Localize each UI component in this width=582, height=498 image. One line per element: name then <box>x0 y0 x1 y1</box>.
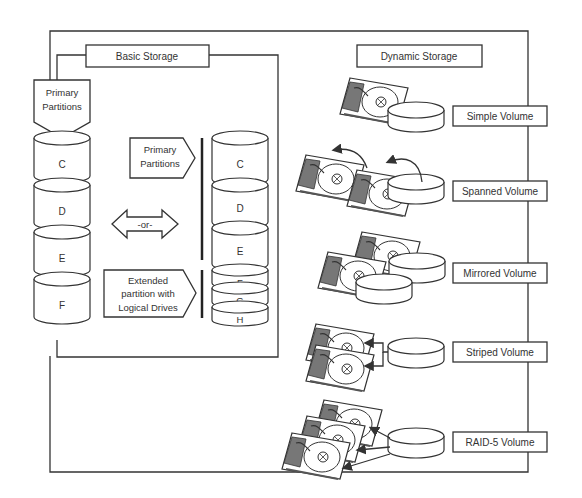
volume-disk-icon <box>356 274 412 304</box>
basic-storage-title: Basic Storage <box>86 45 209 67</box>
left-disk-e: E <box>34 225 90 277</box>
svg-text:Primary: Primary <box>144 144 177 155</box>
svg-text:Partitions: Partitions <box>140 158 180 169</box>
arrow-icon <box>358 447 390 450</box>
svg-text:C: C <box>58 159 65 170</box>
svg-text:RAID-5 Volume: RAID-5 Volume <box>466 437 535 448</box>
svg-text:-or-: -or- <box>138 219 153 230</box>
left-disk-f: F <box>34 272 90 324</box>
or-double-arrow: -or- <box>112 210 178 238</box>
svg-text:Spanned Volume: Spanned Volume <box>462 186 539 197</box>
extended-partition-callout: Extended partition with Logical Drives <box>104 270 196 317</box>
volume-disk-icon <box>388 428 444 458</box>
right-disk-stack: C D E F G H <box>212 131 268 326</box>
volume-disk-icon <box>388 102 444 132</box>
left-disk-d: D <box>34 178 90 230</box>
svg-text:Dynamic Storage: Dynamic Storage <box>381 51 458 62</box>
primary-partitions-callout: Primary Partitions <box>130 138 195 178</box>
dynamic-storage-title: Dynamic Storage <box>357 45 482 67</box>
spanned-volume-group: Spanned Volume <box>296 149 547 216</box>
svg-text:Striped Volume: Striped Volume <box>466 347 534 358</box>
svg-text:Logical Drives: Logical Drives <box>118 302 178 313</box>
svg-text:Simple Volume: Simple Volume <box>467 111 534 122</box>
svg-text:D: D <box>236 203 243 214</box>
volume-disk-icon <box>388 338 444 368</box>
left-disk-c: C <box>34 131 90 183</box>
simple-volume-group: Simple Volume <box>340 78 547 132</box>
mirrored-volume-group: Mirrored Volume <box>318 232 547 304</box>
svg-text:E: E <box>59 253 66 264</box>
striped-volume-group: Striped Volume <box>306 324 547 391</box>
svg-text:D: D <box>58 206 65 217</box>
svg-text:E: E <box>237 246 244 257</box>
raid5-volume-group: RAID-5 Volume <box>282 400 547 479</box>
svg-text:Extended: Extended <box>128 275 168 286</box>
volume-disk-icon <box>388 174 444 204</box>
svg-text:Primary: Primary <box>46 87 79 98</box>
svg-text:Mirrored Volume: Mirrored Volume <box>463 268 537 279</box>
svg-text:F: F <box>59 300 65 311</box>
svg-text:Basic Storage: Basic Storage <box>116 51 179 62</box>
right-disk-h: H <box>212 301 268 326</box>
left-primary-partitions-callout: Primary Partitions <box>34 80 90 138</box>
left-disk-stack: C D E F <box>34 131 90 324</box>
svg-text:Partitions: Partitions <box>42 101 82 112</box>
svg-text:partition with: partition with <box>121 288 174 299</box>
svg-text:C: C <box>236 159 243 170</box>
storage-diagram: Basic Storage Primary Partitions C D E F <box>0 0 582 498</box>
outer-frame <box>50 31 528 472</box>
svg-text:H: H <box>237 314 244 325</box>
